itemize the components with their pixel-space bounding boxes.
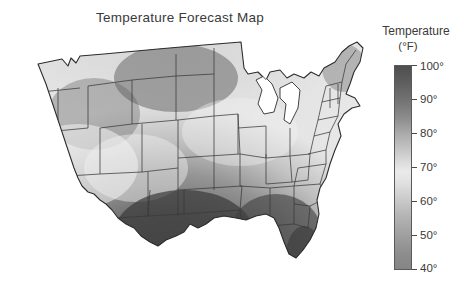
colorbar-label-70: 70° (420, 161, 437, 173)
temperature-forecast-figure: Temperature Forecast Map (0, 0, 464, 296)
colorbar-label-40: 40° (420, 262, 437, 274)
colorbar-ticks: 100° 90° 80° 70° 60° 50° 40° (394, 65, 412, 270)
colorbar[interactable]: 100° 90° 80° 70° 60° 50° 40° (394, 65, 412, 270)
legend: Temperature (°F) 100° 90° 80° 70° 60° 50… (372, 24, 464, 284)
colorbar-label-100: 100° (420, 60, 444, 72)
colorbar-tick (412, 99, 417, 100)
colorbar-label-60: 60° (420, 195, 437, 207)
map-svg (8, 28, 368, 286)
page-title: Temperature Forecast Map (0, 10, 360, 25)
colorbar-label-80: 80° (420, 127, 437, 139)
colorbar-tick (412, 235, 417, 236)
legend-units: (°F) (372, 40, 444, 52)
us-temperature-map[interactable] (8, 28, 368, 286)
colorbar-tick (412, 65, 417, 66)
colorbar-tick (412, 269, 417, 270)
colorbar-label-50: 50° (420, 229, 437, 241)
colorbar-tick (412, 201, 417, 202)
colorbar-tick (412, 133, 417, 134)
colorbar-tick (412, 167, 417, 168)
legend-title: Temperature (372, 24, 460, 38)
colorbar-label-90: 90° (420, 93, 437, 105)
